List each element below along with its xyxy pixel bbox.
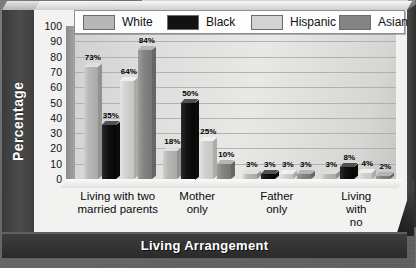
plot-card-bevel [34,1,412,10]
legend-item-black[interactable]: Black [167,15,235,30]
bar-hispanic-3 [358,172,372,179]
legend-swatch-icon [251,15,283,30]
bar-side-face [231,160,235,179]
y-axis-tick-label: 70 [34,67,62,78]
bar-black-1 [181,102,195,180]
bar-black-2 [261,173,275,179]
y-axis-tick-label: 60 [34,82,62,93]
bar-side-face [390,173,394,179]
bar-asian-1 [217,163,231,179]
legend-item-white[interactable]: White [83,15,153,30]
legend-swatch-icon [83,15,115,30]
bar-value-label: 3% [246,161,258,169]
bar-asian-3 [376,175,390,179]
legend-label: Black [206,15,235,29]
y-axis-ticks: 1009080706050403020100 [34,26,62,182]
bar-value-label: 84% [139,37,155,45]
bar-white-3 [322,173,336,179]
legend-label: White [122,15,153,29]
legend-label: Asian [378,15,408,29]
legend-label: Hispanic [290,15,336,29]
bar-value-label: 8% [343,154,355,162]
legend-item-hispanic[interactable]: Hispanic [251,15,336,30]
bar-value-label: 73% [85,54,101,62]
y-axis-tick-label: 50 [34,97,62,108]
y-axis-title: Percentage [2,10,34,232]
bar-asian-2 [297,173,311,179]
legend-swatch-icon [339,15,371,30]
bar-value-label: 35% [103,112,119,120]
bar-side-face [152,47,156,179]
y-axis-tick-label: 10 [34,158,62,169]
bar-white-1 [163,150,177,179]
bar-value-label: 3% [300,161,312,169]
y-axis-tick-label: 40 [34,113,62,124]
x-axis-category-label-0: Living with two married parents [77,190,158,216]
y-axis-tick-label: 30 [34,128,62,139]
bar-hispanic-2 [279,173,293,179]
x-axis-title-bar: Living Arrangement [2,232,407,258]
bar-value-label: 4% [361,160,373,168]
bar-white-0 [84,66,98,179]
x-axis-category-label-2: Father only [260,190,293,216]
y-axis-title-panel: Percentage [2,10,34,232]
legend: WhiteBlackHispanicAsian [74,10,405,34]
bar-value-label: 3% [282,161,294,169]
y-axis-tick-label: 100 [34,21,62,32]
bar-value-label: 10% [218,151,234,159]
bar-value-label: 18% [164,138,180,146]
y-axis-tick-label: 90 [34,36,62,47]
bar-value-label: 50% [182,90,198,98]
bar-series-group: 73%35%64%84%18%50%25%10%3%3%3%3%3%8%4%2% [66,26,396,179]
bar-value-label: 2% [379,163,391,171]
bar-black-3 [340,166,354,179]
y-axis-tick-label: 20 [34,143,62,154]
bar-hispanic-0 [120,80,134,179]
bar-value-label: 25% [200,128,216,136]
plot-floor [61,179,403,188]
bar-value-label: 3% [264,161,276,169]
bar-white-2 [243,173,257,179]
bar-value-label: 3% [325,161,337,169]
bar-black-0 [102,124,116,179]
legend-item-asian[interactable]: Asian [339,15,408,30]
bar-value-label: 64% [121,68,137,76]
x-axis-title: Living Arrangement [141,238,269,253]
legend-swatch-icon [167,15,199,30]
x-axis-category-label-1: Mother only [179,190,215,216]
bar-side-face [311,171,315,179]
y-axis-tick-label: 80 [34,51,62,62]
bar-hispanic-1 [199,140,213,179]
x-axis-category-labels: Living with two married parentsMother on… [66,190,403,228]
y-axis-tick-label: 0 [34,174,62,185]
bar-asian-0 [138,49,152,179]
